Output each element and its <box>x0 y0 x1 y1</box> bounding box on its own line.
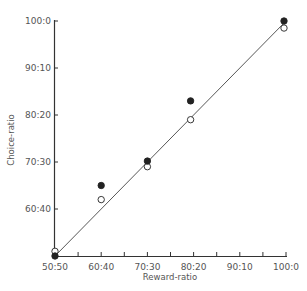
x-tick-label: 90:10 <box>227 262 253 272</box>
x-tick-label: 60:40 <box>88 262 114 272</box>
open-circle-point <box>98 196 104 202</box>
matching-reference-line <box>55 21 286 256</box>
scatter-chart: 60:4070:3080:2090:10100:0 50:5060:4070:3… <box>0 0 307 291</box>
y-tick-label: 100:0 <box>25 16 51 26</box>
x-ticks: 50:5060:4070:3080:2090:10100:0 <box>42 252 299 272</box>
filled-circle-point <box>281 18 287 24</box>
x-tick-label: 70:30 <box>134 262 160 272</box>
x-tick-label: 80:20 <box>181 262 207 272</box>
filled-circle-point <box>52 253 58 259</box>
y-tick-label: 60:40 <box>25 204 51 214</box>
x-axis-title: Reward-ratio <box>143 272 197 282</box>
y-tick-label: 90:10 <box>25 63 51 73</box>
filled-circle-point <box>187 98 193 104</box>
open-circle-point <box>281 25 287 31</box>
filled-circle-point <box>144 158 150 164</box>
x-tick-label: 100:0 <box>273 262 299 272</box>
filled-circle-point <box>98 182 104 188</box>
open-circle-point <box>187 117 193 123</box>
y-tick-label: 80:20 <box>25 110 51 120</box>
y-axis-title: Choice-ratio <box>6 114 16 165</box>
x-tick-label: 50:50 <box>42 262 68 272</box>
y-ticks: 60:4070:3080:2090:10100:0 <box>25 16 58 214</box>
y-tick-label: 70:30 <box>25 157 51 167</box>
